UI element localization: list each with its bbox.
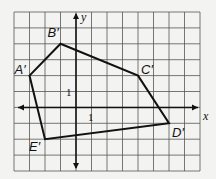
y-axis-label: y [80,10,87,24]
vertex-label-2: C′ [141,62,153,77]
y-tick-label-1: 1 [66,86,72,98]
coordinate-plane: A′B′C′D′E′ x y 1 1 [0,0,216,179]
vertex-label-3: D′ [172,125,184,140]
x-tick-label-1: 1 [88,111,94,123]
vertex-label-0: A′ [14,62,27,77]
vertex-label-1: B′ [48,25,60,40]
vertex-labels: A′B′C′D′E′ [14,25,185,154]
vertex-label-4: E′ [29,139,41,154]
x-axis-label: x [202,109,209,123]
grid [14,12,200,171]
